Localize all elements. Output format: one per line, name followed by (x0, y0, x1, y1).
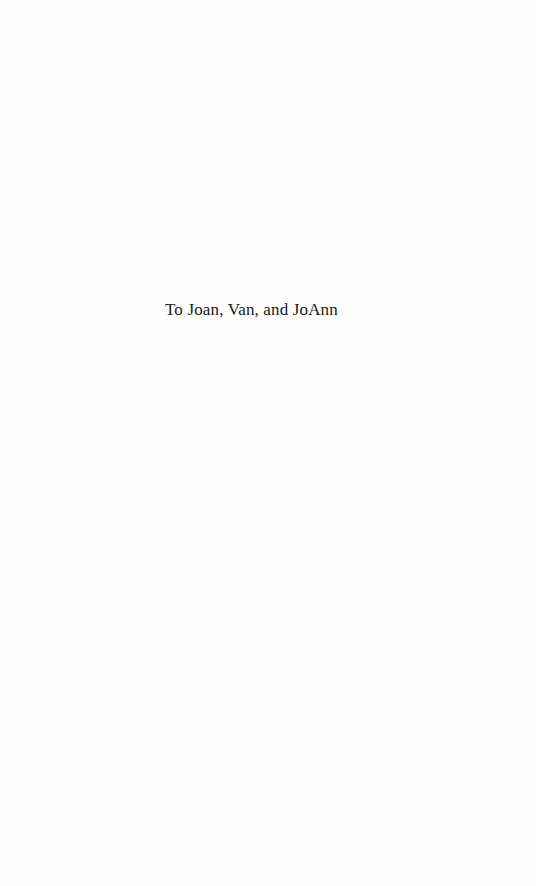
dedication-text: To Joan, Van, and JoAnn (165, 300, 338, 320)
book-page: To Joan, Van, and JoAnn (0, 0, 536, 886)
